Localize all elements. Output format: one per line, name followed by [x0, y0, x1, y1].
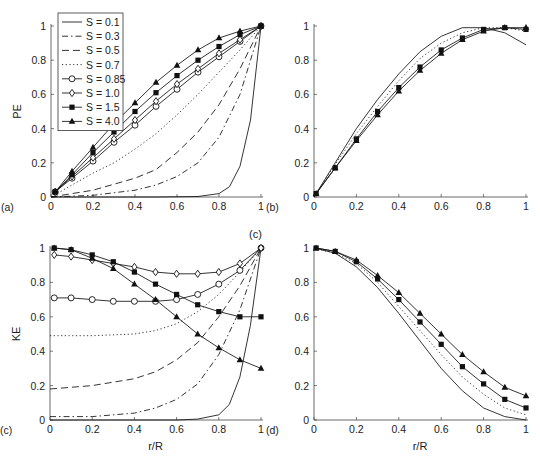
series-line	[50, 248, 261, 336]
x-tick-label: 0	[48, 200, 54, 212]
series-S4-0	[313, 24, 529, 196]
data-point-marker	[110, 265, 117, 271]
legend-label: S = 0.85	[86, 73, 126, 85]
y-tick-label: 0.2	[31, 157, 46, 169]
legend-label: S = 0.7	[86, 59, 120, 71]
data-point-marker	[216, 309, 221, 314]
data-point-marker	[153, 282, 158, 287]
data-point-marker	[396, 297, 401, 302]
y-tick-label: 0.2	[294, 380, 309, 392]
data-point-marker	[237, 314, 242, 319]
series-line	[316, 28, 526, 194]
x-tick-label: 0.2	[349, 423, 364, 435]
y-tick-label: 0.8	[31, 54, 46, 66]
data-point-marker	[481, 381, 486, 386]
data-point-marker	[153, 268, 158, 275]
data-point-marker	[132, 109, 137, 114]
data-point-marker	[523, 405, 528, 410]
x-tick-label: 1	[258, 200, 264, 212]
series-S0-7	[314, 28, 526, 197]
data-point-marker	[237, 267, 243, 273]
x-tick-label: 0.6	[434, 200, 449, 212]
data-point-marker	[258, 314, 263, 319]
y-tick-label: 0.4	[294, 123, 309, 135]
y-tick-label: 0.2	[30, 380, 45, 392]
y-tick-label: 0.8	[30, 276, 45, 288]
panel-a-pe-plot: 00.20.40.60.8100.20.40.60.81(a)PE	[1, 20, 264, 213]
series-S1-0	[52, 244, 264, 277]
x-axis-label: r/R	[148, 440, 163, 452]
x-tick-label: 0.8	[211, 423, 226, 435]
x-tick-label: 1	[523, 200, 529, 212]
y-tick-label: 0	[303, 414, 309, 426]
x-tick-label: 0.2	[349, 200, 364, 212]
x-tick-label: 0.6	[170, 200, 185, 212]
y-tick-label: 1	[39, 242, 45, 254]
data-point-marker	[68, 295, 74, 301]
series-line	[316, 28, 526, 194]
legend-label: S = 0.3	[86, 30, 120, 42]
data-point-marker	[237, 356, 244, 362]
data-point-marker	[132, 263, 137, 270]
data-point-marker	[502, 384, 509, 390]
data-point-marker	[439, 342, 444, 347]
y-tick-label: 0	[40, 191, 46, 203]
y-tick-label: 0.6	[31, 88, 46, 100]
data-point-marker	[216, 344, 223, 350]
data-point-marker	[480, 368, 487, 374]
legend-label: S = 0.5	[86, 44, 120, 56]
data-point-marker	[131, 298, 137, 304]
data-point-marker	[195, 58, 200, 63]
data-point-marker	[195, 46, 202, 52]
x-tick-label: 0	[47, 423, 53, 435]
data-point-marker	[194, 330, 201, 336]
data-point-marker	[174, 292, 179, 297]
x-tick-label: 0	[311, 200, 317, 212]
data-point-marker	[174, 62, 181, 68]
x-tick-label: 0.8	[476, 423, 491, 435]
y-tick-label: 0	[39, 414, 45, 426]
data-point-marker	[195, 302, 200, 307]
data-point-marker	[502, 397, 507, 402]
series-line	[54, 248, 261, 301]
data-point-marker	[195, 291, 201, 297]
data-point-marker	[89, 297, 95, 303]
data-point-marker	[216, 268, 221, 275]
y-tick-label: 0.4	[294, 345, 309, 357]
y-axis-label: PE	[11, 104, 23, 119]
series-line	[54, 248, 261, 368]
series-S0-85	[51, 245, 264, 304]
series-line	[314, 248, 526, 415]
x-tick-label: 0	[311, 423, 317, 435]
data-point-marker	[90, 150, 95, 155]
data-point-marker	[51, 295, 57, 301]
series-S0-1	[314, 248, 526, 420]
data-point-marker	[174, 270, 179, 277]
series-line	[314, 28, 526, 197]
data-point-marker	[216, 44, 221, 49]
legend: S = 0.1S = 0.3S = 0.5S = 0.7S = 0.85S = …	[58, 13, 126, 131]
series-S0-7	[314, 248, 526, 415]
data-point-marker	[111, 259, 116, 264]
x-tick-label: 0.2	[86, 200, 101, 212]
series-line	[314, 28, 526, 197]
y-axis-label: KE	[10, 327, 22, 342]
x-tick-label: 0.2	[85, 423, 100, 435]
data-point-marker	[153, 90, 158, 95]
y-tick-label: 0.6	[294, 88, 309, 100]
y-tick-label: 0.4	[31, 123, 46, 135]
series-S0-1	[314, 28, 526, 197]
data-point-marker	[195, 270, 200, 277]
legend-label: S = 4.0	[86, 115, 120, 127]
data-point-marker	[417, 319, 422, 324]
data-point-marker	[132, 269, 137, 274]
x-tick-label: 0.4	[128, 200, 143, 212]
y-tick-label: 0	[303, 191, 309, 203]
legend-marker	[69, 105, 74, 110]
panel-b-pe-plot: 00.20.40.60.8100.20.40.60.81(b)	[266, 20, 529, 213]
data-point-marker	[174, 297, 180, 303]
panel-d-ke-plot: 00.20.40.60.8100.20.40.60.81(d)r/R	[266, 242, 529, 452]
x-axis-label: r/R	[413, 440, 428, 452]
x-tick-label: 0.4	[391, 423, 406, 435]
x-tick-label: 0.6	[169, 423, 184, 435]
